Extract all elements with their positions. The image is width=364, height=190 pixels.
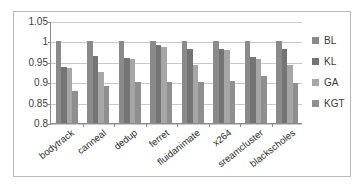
x-axis-label-text: x264 bbox=[211, 127, 234, 148]
bar-group bbox=[51, 22, 83, 123]
bar-group bbox=[83, 22, 115, 123]
bar bbox=[167, 82, 172, 123]
y-axis-tick-labels: 0.80.850.90.9511.05 bbox=[14, 22, 48, 124]
legend-label: KL bbox=[324, 57, 336, 67]
y-axis-tick-label: 0.9 bbox=[14, 78, 48, 88]
chart-container: 0.80.850.90.9511.05 bodytrackcannealdedu… bbox=[13, 11, 351, 177]
bar-group bbox=[272, 22, 304, 123]
bar bbox=[72, 91, 77, 123]
x-axis-label-text: ferret bbox=[147, 127, 171, 149]
bar-group bbox=[209, 22, 241, 123]
bar bbox=[104, 86, 109, 123]
bar bbox=[261, 76, 266, 123]
legend-swatch-icon bbox=[312, 37, 319, 44]
bar-group bbox=[240, 22, 272, 123]
legend-swatch-icon bbox=[312, 79, 319, 86]
legend-label: BL bbox=[324, 36, 336, 46]
legend-item[interactable]: GA bbox=[312, 72, 356, 93]
legend-swatch-icon bbox=[312, 100, 319, 107]
plot-area bbox=[50, 22, 302, 124]
chart-legend: BLKLGAKGT bbox=[312, 30, 356, 114]
x-axis-label-text: bodytrack bbox=[37, 127, 76, 161]
x-axis-label-text: canneal bbox=[75, 127, 108, 156]
legend-item[interactable]: BL bbox=[312, 30, 356, 51]
bar bbox=[293, 83, 298, 123]
bar-group bbox=[114, 22, 146, 123]
legend-item[interactable]: KL bbox=[312, 51, 356, 72]
y-axis-tick-label: 1 bbox=[14, 37, 48, 47]
bar bbox=[198, 82, 203, 123]
y-axis-tick-label: 0.8 bbox=[14, 119, 48, 129]
legend-swatch-icon bbox=[312, 58, 319, 65]
legend-label: KGT bbox=[324, 99, 345, 109]
bar-group bbox=[177, 22, 209, 123]
bar bbox=[230, 81, 235, 123]
legend-label: GA bbox=[324, 78, 338, 88]
bar-series-layer bbox=[51, 22, 302, 123]
bar bbox=[135, 82, 140, 123]
y-axis-tick-label: 0.85 bbox=[14, 99, 48, 109]
y-axis-tick-label: 0.95 bbox=[14, 58, 48, 68]
x-axis-label-text: dedup bbox=[112, 127, 140, 152]
y-axis-tick-label: 1.05 bbox=[14, 17, 48, 27]
legend-item[interactable]: KGT bbox=[312, 93, 356, 114]
x-axis-category-labels: bodytrackcannealdedupferretfluidanimatex… bbox=[50, 124, 302, 178]
bar-group bbox=[146, 22, 178, 123]
